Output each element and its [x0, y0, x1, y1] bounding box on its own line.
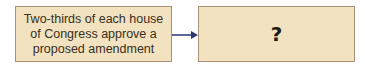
arrow-head	[191, 31, 198, 39]
question-mark-placeholder: ?	[271, 22, 283, 46]
flow-step-unknown: ?	[198, 6, 355, 62]
flow-arrow-right-icon	[172, 29, 198, 41]
step-text: Two-thirds of each house of Congress app…	[16, 12, 171, 57]
flow-step-congress-approval: Two-thirds of each house of Congress app…	[15, 6, 172, 62]
